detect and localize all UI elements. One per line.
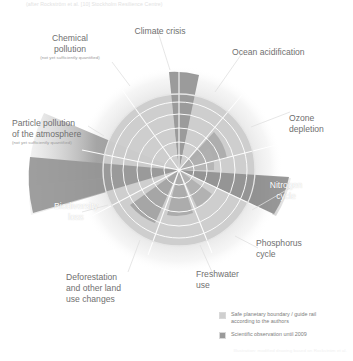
label-particle-pollution-note: (not yet sufficiently quantified): [12, 140, 81, 146]
label-chemical-pollution-note: (not yet sufficiently quantified): [16, 55, 124, 61]
legend: Safe planetary boundary / guide rail acc…: [219, 311, 351, 345]
legend-label-safe-boundary: Safe planetary boundary / guide rail acc…: [231, 311, 316, 325]
legend-item-safe-boundary: Safe planetary boundary / guide rail acc…: [219, 311, 351, 325]
label-particle-pollution: Particle pollution of the atmosphere (no…: [12, 118, 81, 146]
legend-swatch-observation: [219, 332, 226, 339]
label-deforestation: Deforestation and other land use changes: [66, 272, 121, 305]
label-nitrogen-cycle: Nitrogen cycle: [255, 180, 317, 202]
label-ocean-acidification: Ocean acidification: [232, 47, 305, 58]
label-climate-crisis: Climate crisis: [118, 26, 202, 37]
label-biodiversity-loss: Biodiversity loss: [36, 201, 116, 223]
legend-label-observation: Scientific observation until 2009: [231, 331, 307, 338]
legend-item-observation: Scientific observation until 2009: [219, 331, 351, 339]
legend-swatch-safe-boundary: [219, 312, 226, 319]
label-phosphorus-cycle: Phosphorus cycle: [256, 238, 302, 260]
source-credit-bottom: Illustration: modified drawing based on …: [234, 348, 347, 353]
label-ozone-depletion: Ozone depletion: [289, 113, 324, 135]
label-freshwater-use: Freshwater use: [196, 269, 239, 291]
planetary-boundaries-figure: (after Rockström et al. [10] Stockholm R…: [0, 0, 353, 361]
label-chemical-pollution: Chemical pollution (not yet sufficiently…: [16, 33, 124, 61]
